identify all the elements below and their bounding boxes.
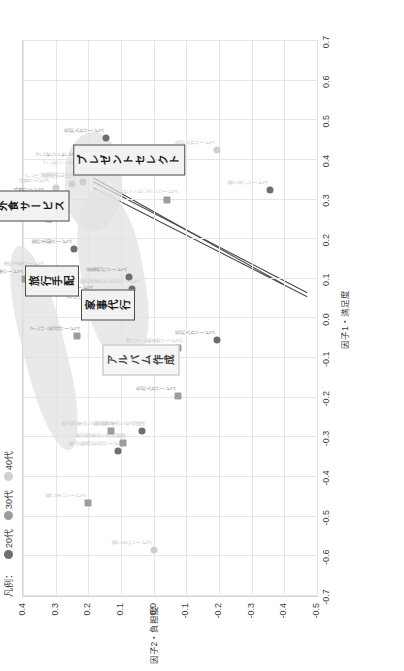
figure-canvas: 凡例： 20代 30代 40代 旅行手配サービス外食サービスアルバム作成サービス…: [0, 0, 404, 671]
x-tick-label: -0.6: [321, 550, 331, 566]
x-tick-label: -0.7: [321, 589, 331, 605]
legend-label-30dai: 30代: [2, 490, 15, 509]
gridline-horizontal: [154, 41, 155, 596]
x-tick-label: 0.4: [321, 155, 331, 168]
gridline-vertical: [23, 238, 317, 239]
callout-2[interactable]: 外食サービス: [0, 190, 70, 221]
gridline-vertical: [23, 318, 317, 319]
scatter-plot-area: 旅行手配サービス外食サービスアルバム作成サービス家事代行サービス親の将来のための…: [22, 40, 318, 597]
data-point[interactable]: [163, 196, 170, 203]
legend-label-40dai: 40代: [2, 451, 15, 470]
data-point[interactable]: [103, 135, 110, 142]
x-tick-label: 0.0: [321, 313, 331, 326]
y-tick-label: 0.2: [82, 603, 92, 631]
y-tick-label: -0.3: [246, 603, 256, 631]
callout-4[interactable]: アルバム作成: [102, 345, 179, 376]
gridline-vertical: [23, 40, 317, 41]
gridline-vertical: [23, 80, 317, 81]
x-tick-label: -0.2: [321, 391, 331, 407]
callout-1[interactable]: 旅行手配: [25, 265, 79, 296]
legend-title: 凡例：: [2, 570, 15, 597]
legend-item-20dai[interactable]: 20代: [2, 529, 15, 559]
y-tick-label: -0.4: [278, 603, 288, 631]
x-tick-label: 0.5: [321, 115, 331, 128]
legend-swatch-30dai: [4, 511, 13, 520]
data-point[interactable]: [114, 448, 121, 455]
gridline-vertical: [23, 555, 317, 556]
legend-swatch-40dai: [4, 472, 13, 481]
data-point[interactable]: [175, 392, 182, 399]
data-point[interactable]: [80, 178, 87, 185]
y-tick-label: -0.5: [311, 603, 321, 631]
x-tick-label: -0.3: [321, 431, 331, 447]
gridline-horizontal: [252, 41, 253, 596]
x-tick-label: -0.4: [321, 470, 331, 486]
legend-swatch-20dai: [4, 550, 13, 559]
x-tick-label: -0.5: [321, 510, 331, 526]
x-tick-label: 0.7: [321, 36, 331, 49]
x-tick-label: 0.2: [321, 234, 331, 247]
data-point[interactable]: [214, 337, 221, 344]
data-point[interactable]: [70, 246, 77, 253]
gridline-horizontal: [186, 41, 187, 596]
x-axis-title: 因子1・満足度: [338, 42, 350, 597]
data-point[interactable]: [214, 147, 221, 154]
data-point[interactable]: [126, 273, 133, 280]
y-axis-title: 因子2・負担度: [150, 605, 160, 665]
gridline-vertical: [23, 595, 317, 596]
data-point[interactable]: [119, 440, 126, 447]
data-point[interactable]: [139, 428, 146, 435]
gridline-horizontal: [317, 41, 318, 596]
x-tick-label: 0.3: [321, 194, 331, 207]
gridline-vertical: [23, 119, 317, 120]
y-tick-label: -0.1: [180, 603, 190, 631]
data-point[interactable]: [85, 499, 92, 506]
x-tick-label: 0.6: [321, 75, 331, 88]
gridline-vertical: [23, 476, 317, 477]
y-tick-label: 0.3: [50, 603, 60, 631]
x-tick-label: -0.1: [321, 351, 331, 367]
callout-3[interactable]: 家事代行: [81, 289, 135, 320]
legend-item-40dai[interactable]: 40代: [2, 451, 15, 481]
gridline-vertical: [23, 516, 317, 517]
y-tick-label: 0.4: [17, 603, 27, 631]
legend-label-20dai: 20代: [2, 529, 15, 548]
x-tick-label: 0.1: [321, 274, 331, 287]
gridline-horizontal: [219, 41, 220, 596]
legend-item-30dai[interactable]: 30代: [2, 490, 15, 520]
legend: 凡例： 20代 30代 40代: [2, 451, 15, 597]
annotation-lines: [23, 41, 317, 596]
data-point[interactable]: [69, 180, 76, 187]
data-point[interactable]: [73, 333, 80, 340]
data-point[interactable]: [108, 428, 115, 435]
y-tick-label: 0.1: [115, 603, 125, 631]
y-tick-label: -0.2: [213, 603, 223, 631]
gridline-horizontal: [284, 41, 285, 596]
callout-5[interactable]: プレゼントセレクト: [73, 144, 185, 175]
data-point[interactable]: [266, 186, 273, 193]
data-point[interactable]: [150, 547, 157, 554]
